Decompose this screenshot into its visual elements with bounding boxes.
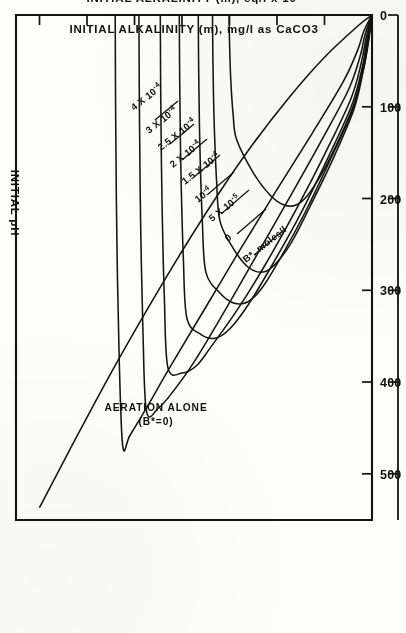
ph-tick-7: 7.4 <box>31 0 49 2</box>
alkalinity-axis-title-text: INITIAL ALKALINITY (m), mg/l as CaCO3 <box>69 23 318 35</box>
secondary-alkalinity-axis-title-text: INITIAL ALKALINITY (m), eq/l x 10 <box>86 0 296 4</box>
curve-b-25e-4 <box>198 15 372 304</box>
alkalinity-axis-title: INITIAL ALKALINITY (m), mg/l as CaCO3 <box>69 23 318 35</box>
alk-tick-2: 200 <box>380 193 401 207</box>
ph-tick-1: 6.2 <box>316 0 334 2</box>
aeration-alone-annotation: AERATION ALONE (B*=0) <box>104 402 207 427</box>
ph-axis-title: INITIAL pH <box>9 170 21 237</box>
curve-b-2e-4 <box>179 15 372 338</box>
alk-tick-1: 100 <box>380 101 401 115</box>
curve-b-1e-4 <box>139 15 372 417</box>
alk-tick-0: 0 <box>380 9 387 23</box>
figure-root: B*, moles/l 0 5 X 10-5 10-4 <box>0 0 406 633</box>
svg-text:5 X 10-5: 5 X 10-5 <box>205 191 242 224</box>
curve-label-0-base: 0 <box>222 231 233 243</box>
annotation-line-2: (B*=0) <box>138 416 173 427</box>
curve-labels: B*, moles/l 0 5 X 10-5 10-4 <box>127 79 288 264</box>
curve-label-leaders <box>155 101 285 255</box>
svg-text:0: 0 <box>222 231 233 243</box>
svg-text:INITIAL ALKALINITY (m), mg/l a: INITIAL ALKALINITY (m), mg/l as CaCO3 <box>69 23 318 35</box>
svg-text:INITIAL ALKALINITY (m), eq/l x: INITIAL ALKALINITY (m), eq/l x 103 <box>86 0 301 4</box>
ph-tick-0: 6.0 <box>363 0 381 2</box>
ph-axis-title-text: INITIAL pH <box>9 170 21 237</box>
chart-canvas: B*, moles/l 0 5 X 10-5 10-4 <box>0 0 406 633</box>
curve-b-3e-4 <box>213 15 372 272</box>
alk-tick-5: 500 <box>380 468 401 482</box>
curve-b-0 <box>40 15 372 507</box>
svg-text:4 X 10-4: 4 X 10-4 <box>127 79 164 112</box>
alk-tick-3: 300 <box>380 284 401 298</box>
alk-tick-4: 400 <box>380 376 401 390</box>
annotation-line-1: AERATION ALONE <box>104 402 207 413</box>
svg-text:10-4: 10-4 <box>191 183 214 205</box>
data-curves <box>40 15 372 507</box>
plot-frame <box>16 15 372 520</box>
secondary-alkalinity-axis <box>388 15 398 520</box>
secondary-alkalinity-axis-title: INITIAL ALKALINITY (m), eq/l x 103 <box>86 0 301 4</box>
